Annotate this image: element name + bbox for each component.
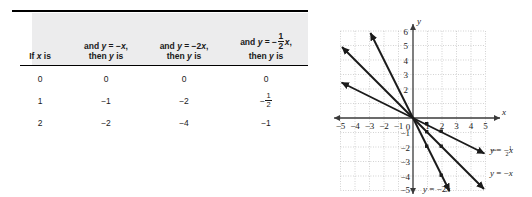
column-header-neg-2x: and y = −2x, then y is — [144, 10, 224, 65]
x-tick--4: −4 — [350, 121, 360, 131]
line-label-neg-half-x-text: y = −12x — [489, 145, 513, 157]
y-tick-4: 4 — [404, 56, 409, 66]
y-tick-6: 6 — [404, 27, 409, 37]
table-row: 2 −2 −4 −1 — [12, 112, 308, 134]
fraction-one-half: 12 — [265, 92, 271, 110]
cell-neg-x: −2 — [68, 112, 144, 134]
y-tick-5: 5 — [404, 41, 409, 51]
column-header-x: If x is — [12, 10, 68, 65]
x-tick-4: 4 — [469, 121, 474, 131]
cell-neg-half-x: −12 — [224, 90, 308, 112]
x-tick-3: 3 — [454, 121, 459, 131]
x-tick--3: −3 — [365, 121, 375, 131]
y-tick--2: −2 — [400, 143, 410, 153]
line-label-neg-x: y = −x — [489, 168, 513, 178]
line-label-neg-2x: y = −2x — [422, 184, 450, 194]
y-tick--3: −3 — [400, 157, 410, 167]
fraction-one-half: 12 — [278, 32, 285, 52]
column-header-neg-x-line2: then y is — [68, 52, 144, 62]
cell-value-negative-one-half: −12 — [260, 92, 272, 110]
data-point-half-2 — [440, 130, 443, 133]
column-header-x-line2: If x is — [12, 52, 68, 62]
column-header-neg-x: and y = −x, then y is — [68, 10, 144, 65]
cell-neg-x: −1 — [68, 90, 144, 112]
line-label-neg-half-x: y = −12x — [489, 145, 513, 157]
cell-neg-x: 0 — [68, 65, 144, 90]
data-point-half-1 — [425, 122, 428, 125]
coordinate-graph-panel: x y −5 −4 −3 −2 −1 0 1 2 3 4 5 6 5 4 3 2… — [308, 0, 532, 197]
value-table-panel: If x is and y = −x, then y is and y = −2… — [12, 10, 308, 132]
fraction-numerator: 1 — [278, 32, 285, 41]
cell-neg-half-x: 0 — [224, 65, 308, 90]
y-tick--1: −1 — [400, 128, 410, 138]
column-header-neg-2x-line2: then y is — [144, 52, 224, 62]
data-point-one-2 — [440, 145, 443, 148]
fraction-denominator: 2 — [278, 41, 285, 52]
y-tick--5: −5 — [400, 185, 410, 195]
x-tick-5: 5 — [483, 121, 488, 131]
table-row: 0 0 0 0 — [12, 65, 308, 90]
value-table: If x is and y = −x, then y is and y = −2… — [12, 10, 308, 134]
y-tick--4: −4 — [400, 172, 410, 182]
data-point-one-1 — [425, 130, 428, 133]
x-tick--2: −2 — [379, 121, 389, 131]
axes — [336, 24, 500, 192]
y-tick-2: 2 — [404, 85, 409, 95]
coordinate-graph: x y −5 −4 −3 −2 −1 0 1 2 3 4 5 6 5 4 3 2… — [308, 0, 532, 197]
table-row: 1 −1 −2 −12 — [12, 90, 308, 112]
y-axis-label: y — [416, 16, 421, 26]
cell-neg-2x: −4 — [144, 112, 224, 134]
table-header-row: If x is and y = −x, then y is and y = −2… — [12, 10, 308, 65]
column-header-neg-half-x: and y = −12x, then y is — [224, 10, 308, 65]
column-header-neg-half-x-line2: then y is — [224, 52, 308, 62]
column-header-neg-half-x-line1: and y = −12x, — [224, 33, 308, 53]
y-tick-3: 3 — [404, 70, 409, 80]
x-tick--5: −5 — [336, 121, 346, 131]
data-point-two-2 — [440, 174, 443, 177]
cell-neg-half-x: −1 — [224, 112, 308, 134]
fraction-numerator: 1 — [265, 92, 271, 100]
cell-x: 2 — [12, 112, 68, 134]
cell-neg-2x: 0 — [144, 65, 224, 90]
data-point-two-1 — [425, 145, 428, 148]
x-tick-labels: −5 −4 −3 −2 −1 0 1 2 3 4 5 — [336, 121, 489, 132]
x-axis-label: x — [501, 107, 506, 117]
fraction-denominator: 2 — [265, 100, 271, 110]
table-head: If x is and y = −x, then y is and y = −2… — [12, 10, 308, 65]
line-y-neg-2x — [371, 33, 450, 191]
cell-x: 0 — [12, 65, 68, 90]
table-body: 0 0 0 0 1 −1 −2 −12 2 −2 −4 −1 — [12, 65, 308, 134]
cell-x: 1 — [12, 90, 68, 112]
cell-neg-2x: −2 — [144, 90, 224, 112]
